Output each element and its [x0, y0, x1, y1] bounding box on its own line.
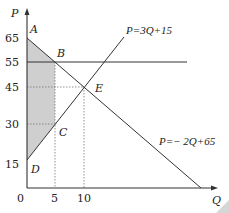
point-d-label: D [30, 163, 40, 176]
point-c-label: C [59, 126, 68, 139]
y-tick-15: 15 [5, 158, 19, 171]
y-tick-65: 65 [5, 32, 19, 45]
x-axis-arrow-icon [211, 186, 218, 191]
point-b-label: B [56, 47, 65, 60]
x-tick-5: 5 [51, 192, 58, 205]
supply-demand-diagram: P Q 0 65 55 45 30 15 5 10 A B C D E P=3Q… [0, 0, 229, 213]
point-a-label: A [29, 23, 38, 36]
y-axis-label: P [10, 7, 19, 20]
supply-equation: P=3Q+15 [125, 24, 173, 36]
y-tick-55: 55 [5, 56, 19, 69]
y-tick-45: 45 [5, 81, 19, 94]
x-tick-10: 10 [77, 192, 91, 205]
y-axis-arrow-icon [25, 8, 30, 15]
y-tick-30: 30 [5, 118, 19, 131]
origin-label: 0 [17, 192, 24, 205]
point-e-label: E [94, 82, 103, 95]
demand-equation: P=− 2Q+65 [158, 135, 216, 147]
x-axis-label: Q [212, 194, 221, 207]
